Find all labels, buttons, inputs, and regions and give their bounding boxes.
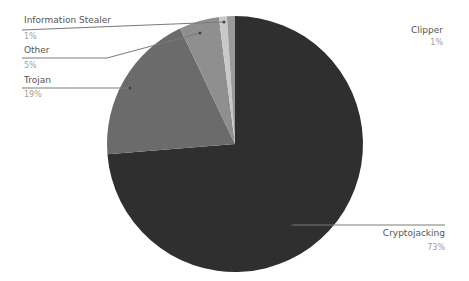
pie-slices <box>107 16 363 272</box>
label-cryptojacking: Cryptojacking <box>383 228 445 239</box>
pct-cryptojacking: 73% <box>427 243 445 253</box>
leader-dot-trojan <box>129 87 132 90</box>
leader-dot-info-stealer <box>223 21 226 24</box>
label-information-stealer: Information Stealer <box>24 15 111 26</box>
label-trojan: Trojan <box>24 75 51 86</box>
pct-trojan: 19% <box>24 90 42 100</box>
label-clipper: Clipper <box>411 25 443 36</box>
pct-other: 5% <box>24 61 37 71</box>
pct-clipper: 1% <box>430 38 443 48</box>
leader-dot-other <box>199 32 202 35</box>
label-other: Other <box>24 45 50 56</box>
pct-information-stealer: 1% <box>24 32 37 42</box>
leader-dot-cryptojacking <box>291 224 294 227</box>
